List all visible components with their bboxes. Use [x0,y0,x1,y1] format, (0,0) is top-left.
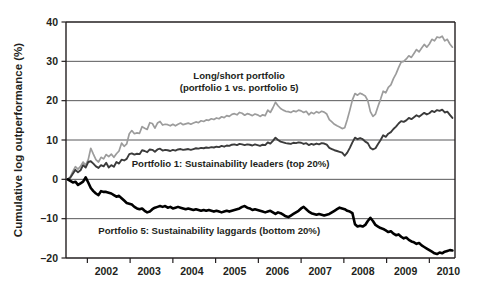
y-tick-label--10: –10 [40,212,58,224]
portfolio1-label-line-0: Portfolio 1: Sustainability leaders (top… [132,158,330,169]
portfolio1-label: Portfolio 1: Sustainability leaders (top… [132,158,330,169]
y-tick-label--20: –20 [40,252,58,264]
x-tick-label-2006: 2006 [266,265,290,277]
cumulative-log-outperformance-chart: –20–10010203040 200220032004200520062007… [0,0,477,295]
portfolio5-label: Portfolio 5: Sustainability laggards (bo… [98,225,320,236]
y-axis-title: Cumulative log outperformance (%) [12,43,24,237]
x-tick-label-2005: 2005 [223,265,247,277]
x-tick-label-2003: 2003 [137,265,161,277]
long-short-label-line-1: (portfolio 1 vs. portfolio 5) [180,82,299,93]
chart-background [0,0,477,295]
long-short-label: Long/short portfolio(portfolio 1 vs. por… [180,70,299,93]
portfolio5-label-line-0: Portfolio 5: Sustainability laggards (bo… [98,225,320,236]
chart-figure: –20–10010203040 200220032004200520062007… [0,0,477,295]
x-tick-label-2002: 2002 [95,265,119,277]
long-short-label-line-0: Long/short portfolio [193,70,285,81]
x-tick-label-2007: 2007 [308,265,332,277]
y-tick-label-10: 10 [46,134,58,146]
y-tick-label-0: 0 [52,173,58,185]
x-tick-label-2004: 2004 [180,265,204,277]
y-tick-label-20: 20 [46,94,58,106]
y-tick-label-30: 30 [46,55,58,67]
y-tick-label-40: 40 [46,16,58,28]
x-tick-label-2010: 2010 [437,265,461,277]
x-tick-label-2009: 2009 [394,265,418,277]
x-tick-label-2008: 2008 [351,265,375,277]
